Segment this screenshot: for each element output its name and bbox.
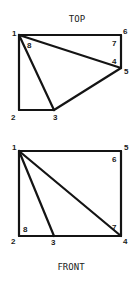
vertex-label-7: 7 [112,39,117,48]
vertex-label-3: 3 [51,238,56,247]
vertex-label-2: 2 [11,113,16,122]
vertex-label-3: 3 [53,113,58,122]
front-view: FRONT15678234 [11,143,129,272]
vertex-label-1: 1 [12,143,17,152]
orthographic-projection-diagram: TOP18674523 FRONT15678234 [0,0,139,292]
front-view-title: FRONT [57,262,85,272]
vertex-label-8: 8 [27,41,32,50]
vertex-label-4: 4 [123,237,128,246]
edge-1-4 [19,151,121,236]
vertex-label-8: 8 [23,225,28,234]
vertex-label-5: 5 [124,143,129,152]
vertex-label-7: 7 [112,223,117,232]
vertex-label-6: 6 [123,27,128,36]
edge-1-5 [19,35,121,68]
top-view: TOP18674523 [11,14,129,122]
vertex-label-4: 4 [112,57,117,66]
edge-1-3 [19,151,54,236]
edge-1-3 [19,35,54,110]
vertex-label-6: 6 [112,155,117,164]
vertex-label-2: 2 [11,237,16,246]
edge-5-3 [54,68,121,110]
top-view-title: TOP [69,14,86,24]
vertex-label-1: 1 [12,29,17,38]
vertex-label-5: 5 [124,67,129,76]
